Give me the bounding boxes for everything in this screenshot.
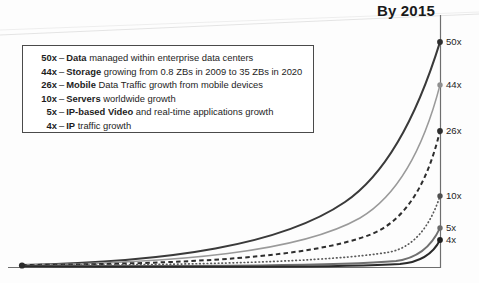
legend-description: and real-time applications growth	[133, 106, 273, 117]
y-axis-label-10x: 10x	[446, 190, 461, 201]
series-line-servers-10x	[22, 196, 440, 266]
legend-row: 10x–Servers worldwide growth	[31, 92, 305, 106]
legend-multiplier: 44x	[31, 65, 57, 79]
endpoint-marker-44x	[437, 82, 442, 87]
legend-term: IP-based Video	[66, 106, 133, 117]
legend-description: traffic growth	[75, 120, 131, 131]
legend-multiplier: 10x	[31, 92, 57, 106]
endpoint-marker-50x	[437, 39, 443, 45]
chart-title: By 2015	[377, 2, 435, 19]
legend-multiplier: 5x	[31, 105, 57, 119]
legend-multiplier: 50x	[31, 51, 57, 65]
legend-term: Data	[66, 52, 86, 63]
series-line-ipvideo-5x	[22, 228, 440, 266]
legend-term: IP	[66, 120, 75, 131]
legend-term: Mobile	[66, 79, 96, 90]
legend-dash: –	[57, 120, 66, 131]
legend-box: 50x–Data managed within enterprise data …	[22, 45, 314, 133]
y-axis-label-44x: 44x	[446, 79, 461, 90]
legend-term: Storage	[66, 66, 101, 77]
y-axis-label-50x: 50x	[446, 36, 461, 47]
growth-curves-chart: By 2015 50x 44x 26x 10x 5x 4x 50x–Data m…	[0, 0, 479, 283]
endpoint-marker-5x	[437, 225, 442, 230]
legend-multiplier: 26x	[31, 78, 57, 92]
chart-plot-area	[0, 0, 479, 283]
origin-point-marker	[19, 262, 25, 268]
y-axis-label-4x: 4x	[446, 234, 456, 245]
legend-dash: –	[57, 93, 66, 104]
endpoint-marker-10x	[437, 193, 442, 198]
legend-description: Data Traffic growth from mobile devices	[96, 79, 263, 90]
legend-row: 44x–Storage growing from 0.8 ZBs in 2009…	[31, 65, 305, 79]
legend-dash: –	[57, 66, 66, 77]
legend-dash: –	[57, 52, 66, 63]
legend-row: 5x–IP-based Video and real-time applicat…	[31, 105, 305, 119]
legend-row: 50x–Data managed within enterprise data …	[31, 51, 305, 65]
y-axis-label-26x: 26x	[446, 125, 461, 136]
legend-row: 4x–IP traffic growth	[31, 119, 305, 133]
legend-dash: –	[57, 79, 66, 90]
endpoint-marker-26x	[437, 128, 443, 134]
legend-description: managed within enterprise data centers	[87, 52, 254, 63]
endpoint-marker-4x	[437, 237, 443, 243]
legend-description: growing from 0.8 ZBs in 2009 to 35 ZBs i…	[101, 66, 302, 77]
legend-multiplier: 4x	[31, 119, 57, 133]
legend-description: worldwide growth	[101, 93, 176, 104]
legend-term: Servers	[66, 93, 100, 104]
legend-dash: –	[57, 106, 66, 117]
legend-row: 26x–Mobile Data Traffic growth from mobi…	[31, 78, 305, 92]
y-axis-label-5x: 5x	[446, 222, 456, 233]
